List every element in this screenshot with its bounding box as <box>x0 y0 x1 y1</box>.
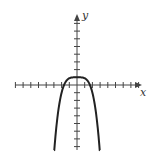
y-axis-arrow-icon <box>74 14 80 21</box>
y-axis-label: y <box>81 9 89 22</box>
x-axis-label: x <box>140 86 147 99</box>
function-graph: y x <box>0 0 154 166</box>
